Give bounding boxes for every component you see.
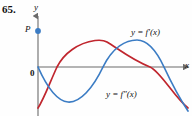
curve-f-prime-blue [38, 40, 188, 111]
point-p-marker [35, 28, 41, 34]
x-axis-label: x [185, 60, 189, 70]
curve-label-f-prime: y = f′(x) [131, 27, 160, 37]
curve-label-f-double-prime: y = f″(x) [106, 89, 137, 99]
origin-label: 0 [30, 68, 35, 78]
y-axis-label: y [34, 2, 38, 12]
point-p-label: P [25, 24, 31, 34]
exercise-figure-page: 65. y x 0 P y = f′(x) y = f″(x) [0, 0, 192, 116]
graph-canvas [0, 0, 192, 116]
